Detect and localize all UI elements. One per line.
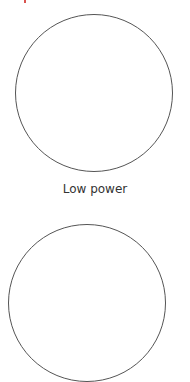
power-mode-option-low-power[interactable] bbox=[15, 14, 173, 172]
option-label-low-power: Low power bbox=[0, 182, 190, 196]
power-mode-option-2[interactable] bbox=[8, 224, 166, 382]
cropped-red-indicator bbox=[24, 0, 26, 3]
